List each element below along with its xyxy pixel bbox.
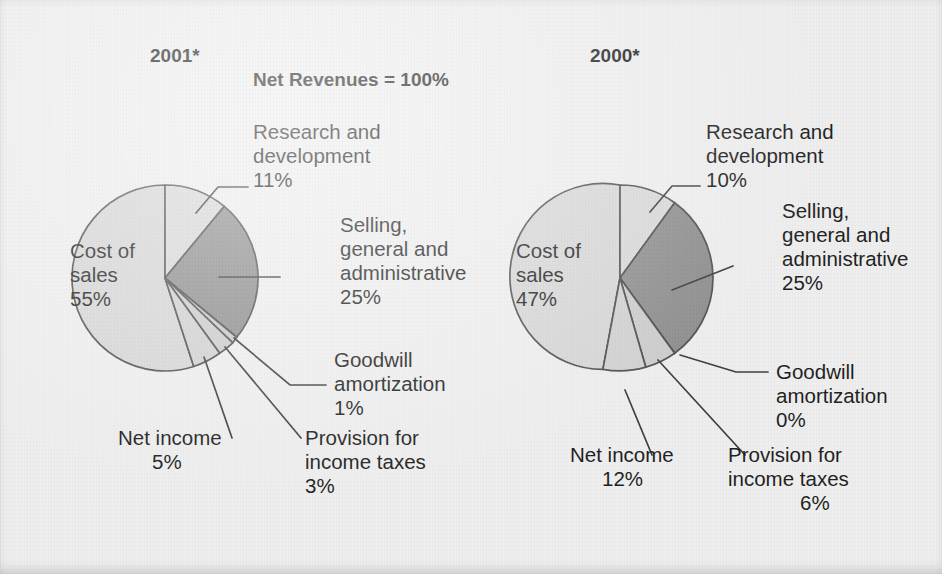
pie-chart-figure: 2001* Net Revenues = 100% 2000* (0, 0, 942, 574)
chart-2000-leader-goodwill-amortization (680, 355, 768, 372)
chart-2001-label-cost-of-sales-value: 55% (70, 287, 111, 310)
chart-2001-label-sga-line2: general and (340, 237, 448, 260)
chart-2000-leader-provision-for-income-taxes (658, 360, 745, 455)
chart-2001-label-sga-value: 25% (340, 285, 381, 308)
chart-2000-label-sga-line1: Selling, (782, 199, 849, 222)
chart-2001-label-net-income-line1: Net income (118, 426, 222, 449)
chart-2001-label-provision-line1: Provision for (305, 426, 419, 449)
chart-2001-label-provision-line2: income taxes (305, 450, 426, 473)
chart-2000-label-research-value: 10% (706, 168, 747, 191)
chart-2001-label-goodwill-line2: amortization (334, 372, 446, 395)
chart-2001-label-provision-value: 3% (305, 474, 335, 497)
chart-2000-title: 2000* (590, 45, 640, 66)
chart-2001-label-sga-line3: administrative (340, 261, 466, 284)
chart-2000-label-research-line2: development (706, 144, 824, 167)
chart-2000-label-sga-value: 25% (782, 271, 823, 294)
chart-2000-label-sga-line3: administrative (782, 247, 908, 270)
chart-2000-label-provision-value: 6% (800, 491, 830, 514)
chart-canvas: 2001* Net Revenues = 100% 2000* (0, 0, 942, 574)
chart-2001-leader-goodwill-amortization (234, 338, 326, 385)
chart-2000-label-goodwill-line1: Goodwill (776, 360, 855, 383)
chart-2001-label-sga-line1: Selling, (340, 213, 407, 236)
chart-2000-label-provision-line2: income taxes (728, 467, 849, 490)
chart-2000-label-goodwill-value: 0% (776, 408, 806, 431)
chart-2001-title: 2001* (150, 45, 200, 66)
chart-2000-label-net-income-line1: Net income (570, 443, 674, 466)
chart-2000-label-provision-line1: Provision for (728, 443, 842, 466)
chart-2001-label-net-income-value: 5% (152, 450, 182, 473)
chart-2000-label-cost-of-sales-line1: Cost of (516, 239, 581, 262)
chart-2001-label-research-line1: Research and (253, 120, 381, 143)
chart-2001-label-cost-of-sales-line2: sales (70, 263, 118, 286)
chart-2001-label-research-value: 11% (253, 168, 293, 191)
chart-2000-label-goodwill-line2: amortization (776, 384, 888, 407)
chart-2000-label-research-line1: Research and (706, 120, 834, 143)
chart-2001-label-research-line2: development (253, 144, 371, 167)
chart-2000-label-cost-of-sales-value: 47% (516, 287, 557, 310)
chart-2000-label-sga-line2: general and (782, 223, 890, 246)
chart-2001-label-goodwill-line1: Goodwill (334, 348, 413, 371)
chart-2000-label-net-income-value: 12% (602, 467, 643, 490)
chart-2001-label-goodwill-value: 1% (334, 396, 364, 419)
chart-2001-leader-provision-for-income-taxes (225, 347, 301, 438)
net-revenues-header: Net Revenues = 100% (253, 69, 449, 90)
chart-2000-label-cost-of-sales-line2: sales (516, 263, 564, 286)
chart-2001-label-cost-of-sales-line1: Cost of (70, 239, 135, 262)
